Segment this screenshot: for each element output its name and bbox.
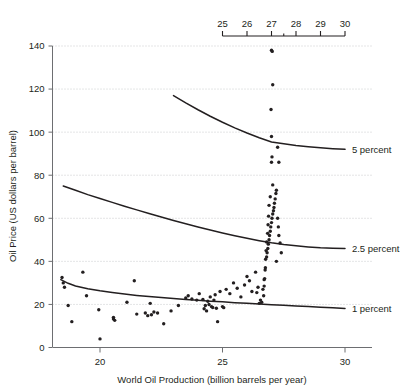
data-point	[250, 290, 253, 293]
top-axis-label-25: 25	[217, 18, 228, 29]
data-point	[269, 225, 272, 228]
data-point	[187, 294, 190, 297]
y-axis-title: Oil Price (US dollars per barrel)	[7, 130, 18, 262]
secondary-top-axis: 252627282930	[217, 18, 350, 36]
data-point	[97, 308, 100, 311]
data-point	[162, 322, 165, 325]
data-point	[271, 183, 274, 186]
data-point	[70, 320, 73, 323]
top-axis-label-27: 27	[266, 18, 277, 29]
y-tick-label-140: 140	[29, 40, 45, 51]
data-point	[269, 230, 272, 233]
data-point	[264, 249, 267, 252]
data-point	[270, 221, 273, 224]
data-point	[266, 223, 269, 226]
y-tick-label-60: 60	[34, 213, 45, 224]
data-point	[274, 192, 277, 195]
series-label-2-5-percent: 2.5 percent	[352, 243, 400, 254]
data-point	[269, 108, 272, 111]
data-point	[267, 204, 270, 207]
data-point	[66, 304, 69, 307]
gridlines	[53, 46, 373, 304]
data-point	[60, 276, 63, 279]
data-point	[218, 290, 221, 293]
data-point	[271, 83, 274, 86]
data-point	[245, 275, 248, 278]
data-point	[270, 161, 273, 164]
data-point	[263, 268, 266, 271]
data-point	[262, 284, 265, 287]
data-point	[276, 217, 279, 220]
data-point	[269, 195, 272, 198]
data-point	[63, 286, 66, 289]
data-point	[277, 161, 280, 164]
data-point	[85, 294, 88, 297]
data-point	[112, 317, 115, 320]
data-point	[270, 135, 273, 138]
trend-curves	[61, 96, 345, 309]
data-point	[261, 288, 264, 291]
x-tick-label-20: 20	[95, 356, 106, 367]
data-point	[205, 309, 208, 312]
y-tick-label-80: 80	[34, 170, 45, 181]
y-axis: 020406080100120140	[29, 40, 53, 353]
data-point	[275, 189, 278, 192]
data-point	[135, 312, 138, 315]
data-point	[133, 279, 136, 282]
top-axis-label-29: 29	[315, 18, 326, 29]
data-point	[213, 293, 216, 296]
data-point	[273, 202, 276, 205]
data-point	[262, 294, 265, 297]
data-point	[277, 234, 280, 237]
data-point	[224, 288, 227, 291]
top-axis-label-28: 28	[291, 18, 302, 29]
data-point	[248, 279, 251, 282]
data-point	[271, 50, 274, 53]
data-point	[228, 292, 231, 295]
data-point	[149, 302, 152, 305]
data-point	[156, 311, 159, 314]
data-point	[215, 307, 218, 310]
data-point	[271, 212, 274, 215]
x-axis: 202530	[53, 348, 373, 367]
data-point	[263, 277, 266, 280]
top-axis-label-26: 26	[242, 18, 253, 29]
y-tick-label-120: 120	[29, 83, 45, 94]
chart-svg: 020406080100120140 202530 252627282930 5…	[0, 0, 401, 391]
data-point	[222, 306, 225, 309]
data-point	[146, 314, 149, 317]
data-point	[204, 304, 207, 307]
data-point	[254, 270, 257, 273]
oil-price-scatter-chart: 020406080100120140 202530 252627282930 5…	[0, 0, 401, 391]
curve-5-percent	[174, 96, 346, 150]
data-point	[280, 251, 283, 254]
y-tick-label-0: 0	[39, 342, 44, 353]
data-point	[270, 155, 273, 158]
data-point	[270, 217, 273, 220]
data-point	[81, 270, 84, 273]
y-tick-label-40: 40	[34, 256, 45, 267]
data-point	[98, 337, 101, 340]
data-point	[264, 258, 267, 261]
data-point	[152, 310, 155, 313]
data-point	[267, 214, 270, 217]
series-labels: 5 percent2.5 percent1 percent	[352, 144, 400, 314]
y-tick-label-100: 100	[29, 127, 45, 138]
y-tick-label-20: 20	[34, 299, 45, 310]
curve-2-5-percent	[63, 186, 345, 248]
data-point	[144, 311, 147, 314]
data-point	[272, 209, 275, 212]
x-tick-label-30: 30	[340, 356, 351, 367]
data-point	[275, 260, 278, 263]
series-label-1-percent: 1 percent	[352, 303, 392, 314]
data-point	[276, 146, 279, 149]
data-point	[243, 283, 246, 286]
data-point	[272, 206, 275, 209]
x-tick-label-25: 25	[217, 356, 228, 367]
data-point	[277, 225, 280, 228]
data-point	[209, 295, 212, 298]
data-point	[232, 281, 235, 284]
data-points	[60, 49, 283, 341]
data-point	[266, 232, 269, 235]
data-point	[198, 292, 201, 295]
